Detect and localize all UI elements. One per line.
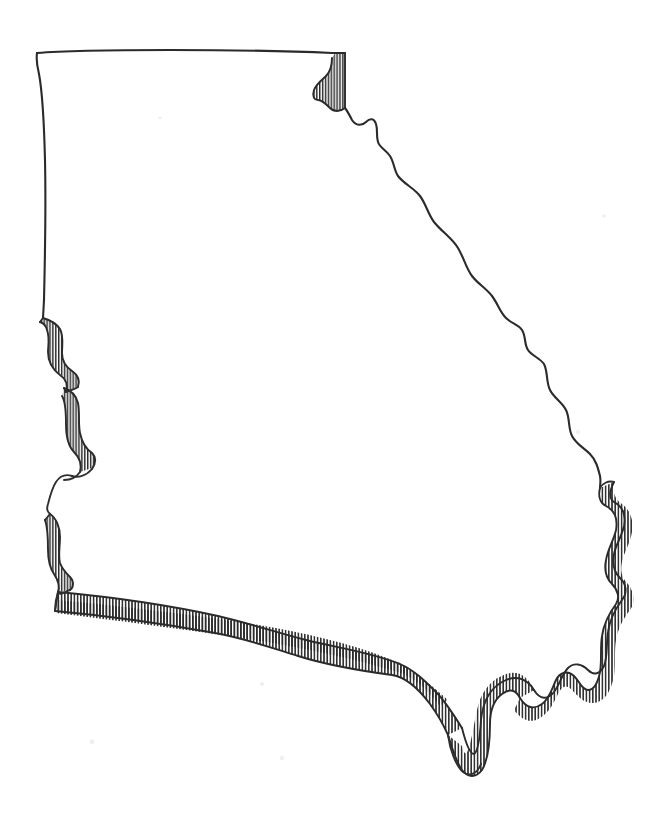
west-border-hatch-middle: [52, 380, 114, 486]
northeast-notch-hatch: [308, 48, 354, 118]
north-border-line: [37, 50, 345, 53]
west-border-connector-b: [47, 469, 92, 514]
map-figure: Georgia hand-drawn pen-and-ink state out…: [0, 0, 651, 826]
georgia-outline-map: [0, 0, 651, 826]
savannah-river-border-line: [345, 108, 600, 488]
west-border-upper-line: [37, 53, 46, 318]
